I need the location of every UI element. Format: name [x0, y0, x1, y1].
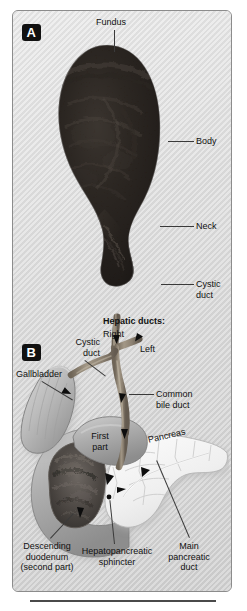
- leader-body: [168, 141, 194, 142]
- gallbladder-specimen-photo: [47, 39, 167, 294]
- label-left-hepatic-duct: Left: [140, 344, 155, 355]
- label-hepatic-ducts-heading: Hepatic ducts:: [103, 316, 165, 327]
- leader-fundus: [114, 30, 115, 52]
- label-neck: Neck: [196, 221, 217, 232]
- label-cystic-duct-a: Cystic duct: [196, 279, 221, 300]
- label-body: Body: [196, 136, 217, 147]
- bottom-rule: [30, 600, 216, 602]
- panel-a-badge: A: [22, 24, 41, 41]
- label-cystic-duct-b: Cystic duct: [64, 337, 100, 358]
- label-gallbladder: Gallbladder: [16, 369, 62, 380]
- label-fundus: Fundus: [96, 17, 126, 28]
- label-descending-duodenum: Descending duodenum (second part): [15, 541, 79, 573]
- leader-cystic-duct-a: [161, 284, 194, 285]
- leader-neck: [160, 226, 194, 227]
- label-main-pancreatic-duct: Main pancreatic duct: [161, 541, 217, 573]
- label-right-hepatic-duct: Right: [103, 329, 124, 340]
- label-hepatopancreatic-sphincter: Hepatopancreatic sphincter: [79, 546, 155, 567]
- label-first-part: First part: [83, 431, 117, 452]
- label-common-bile-duct: Common bile duct: [156, 389, 193, 410]
- hepatopancreatic-sphincter-marker: [107, 495, 112, 500]
- panel-b-badge: B: [22, 344, 41, 361]
- leader-common-bile-duct: [129, 394, 154, 395]
- figure-frame: A: [12, 10, 232, 592]
